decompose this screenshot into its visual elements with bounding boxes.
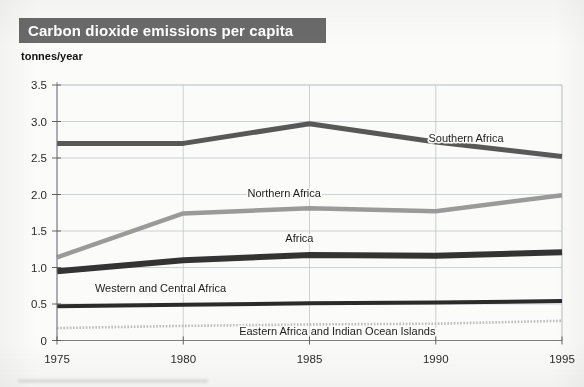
series-label: Southern Africa — [428, 132, 504, 144]
y-tick-label: 1.5 — [31, 225, 47, 237]
series-label: Eastern Africa and Indian Ocean Islands — [239, 325, 436, 337]
y-tick-label: 0 — [41, 335, 47, 347]
figure-container: Carbon dioxide emissions per capita tonn… — [0, 0, 584, 387]
series-label: Western and Central Africa — [95, 282, 227, 294]
y-tick-label: 3.0 — [31, 116, 47, 128]
x-tick-label: 1985 — [297, 353, 323, 365]
y-tick-label: 2.0 — [31, 189, 47, 201]
series-label: Africa — [285, 232, 314, 244]
x-tick-label: 1975 — [44, 353, 70, 365]
y-tick-label: 0.5 — [31, 298, 47, 310]
x-tick-label: 1990 — [423, 353, 449, 365]
line-chart: 00.51.01.52.02.53.03.5197519801985199019… — [0, 0, 584, 387]
series-label: Northern Africa — [248, 187, 322, 199]
x-tick-label: 1995 — [549, 353, 575, 365]
x-tick-label: 1980 — [170, 353, 196, 365]
y-tick-label: 1.0 — [31, 262, 47, 274]
y-tick-label: 3.5 — [31, 79, 47, 91]
y-tick-label: 2.5 — [31, 152, 47, 164]
